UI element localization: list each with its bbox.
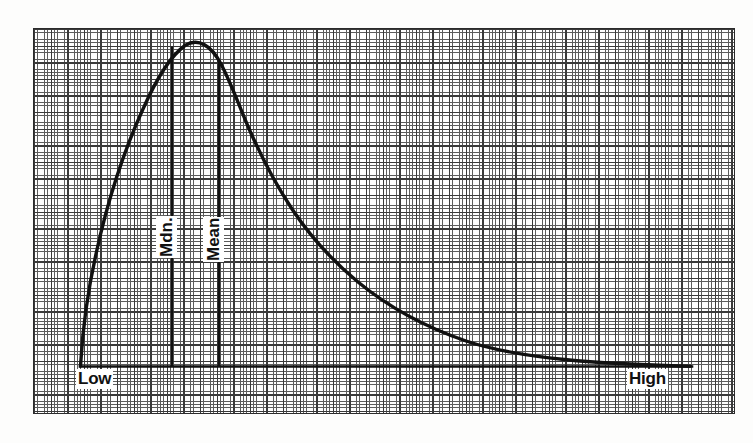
figure-container: Low High Mdn. Mean — [0, 0, 753, 443]
x-axis-high-label: High — [627, 369, 668, 389]
mean-label: Mean — [203, 217, 224, 262]
median-label: Mdn. — [156, 216, 177, 258]
graph-paper-grid — [33, 28, 735, 414]
x-axis-low-label: Low — [76, 369, 113, 389]
